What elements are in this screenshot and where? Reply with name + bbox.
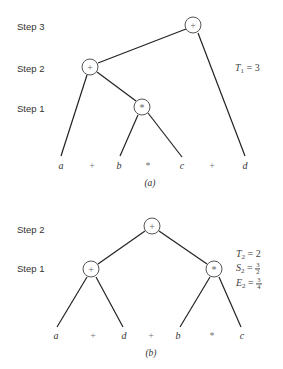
- step-label: Step 2: [17, 224, 44, 235]
- edge-b-left-a: [57, 277, 87, 327]
- edge-a-root-n2: [98, 29, 186, 63]
- metric-subscript: 2: [242, 253, 246, 261]
- metric-equals: =: [248, 277, 254, 288]
- edge-a-n2-a: [61, 75, 87, 156]
- operator-node: +: [83, 261, 100, 278]
- edge-b-right-b: [180, 277, 210, 327]
- leaf-variable: d: [243, 160, 248, 171]
- metric-value: = 3: [247, 62, 260, 73]
- time-metric-t1: T1 = 3: [235, 62, 260, 75]
- time-metric-t2: T2 = 2: [236, 248, 261, 261]
- operator-node: +: [82, 59, 99, 76]
- tree-edges: [0, 0, 283, 369]
- step-label: Step 1: [17, 103, 44, 114]
- leaf-operator: *: [146, 160, 151, 171]
- step-label: Step 2: [17, 63, 44, 74]
- figure-caption-a: (a): [144, 178, 155, 188]
- metric-subscript: 1: [241, 67, 245, 75]
- fraction-denominator: 4: [256, 285, 261, 291]
- edge-b-root-right: [159, 231, 207, 264]
- edge-a-root-d: [198, 33, 245, 156]
- edge-a-n2-n1: [97, 72, 136, 101]
- fraction: 34: [256, 278, 261, 291]
- leaf-variable: a: [54, 330, 59, 341]
- metric-subscript: 2: [241, 267, 245, 275]
- fraction: 32: [255, 263, 260, 276]
- leaf-variable: a: [59, 160, 64, 171]
- metric-value: = 2: [248, 248, 261, 259]
- edge-b-left-d: [96, 277, 123, 327]
- leaf-variable: c: [180, 160, 184, 171]
- metric-equals: =: [247, 262, 253, 273]
- speedup-metric-s2: S2 = 32: [236, 262, 260, 275]
- leaf-variable: c: [240, 330, 244, 341]
- leaf-operator: +: [90, 330, 96, 341]
- operator-node: *: [134, 99, 151, 116]
- leaf-operator: *: [210, 330, 215, 341]
- figure-caption-b: (b): [145, 348, 156, 358]
- operator-node-root: +: [144, 218, 161, 235]
- edge-a-n1-b: [120, 115, 138, 156]
- parallel-evaluation-diagram: Step 3 Step 2 Step 1 + + * a + b * c + d…: [0, 0, 283, 369]
- operator-node: *: [206, 261, 223, 278]
- leaf-operator: +: [209, 160, 215, 171]
- edge-b-root-left: [98, 231, 145, 264]
- operator-node-root: +: [185, 17, 202, 34]
- leaf-variable: b: [176, 330, 181, 341]
- efficiency-metric-e2: E2 = 34: [236, 277, 262, 290]
- step-label: Step 3: [17, 21, 44, 32]
- leaf-operator: +: [89, 160, 95, 171]
- leaf-variable: d: [122, 330, 127, 341]
- edge-a-n1-c: [148, 113, 182, 157]
- step-label: Step 1: [17, 263, 44, 274]
- fraction-denominator: 2: [255, 270, 260, 276]
- leaf-operator: +: [148, 330, 154, 341]
- leaf-variable: b: [117, 160, 122, 171]
- metric-subscript: 2: [242, 282, 246, 290]
